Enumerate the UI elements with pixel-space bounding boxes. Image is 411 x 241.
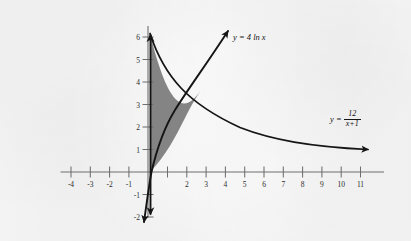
y-tick-label: 3	[126, 101, 140, 110]
graph-figure: -4 -3 -2 -1 2 3 4 5 6 7 8 9 10 11 6 5 4 …	[0, 0, 411, 241]
x-tick-label: 11	[353, 180, 369, 189]
y-tick-label: 5	[126, 56, 140, 65]
x-tick-label: 4	[218, 180, 233, 189]
log-curve-label: y = 4 ln x	[233, 31, 266, 42]
x-tick-label: 9	[314, 180, 329, 189]
fraction-denominator: x+1	[344, 120, 361, 128]
x-tick-label: 7	[276, 180, 291, 189]
x-tick-label: 2	[179, 180, 194, 189]
x-tick-label: 3	[199, 180, 214, 189]
rational-curve-label: y = 12 x+1	[330, 110, 361, 129]
x-tick-label: 10	[333, 180, 349, 189]
y-tick-label: -2	[124, 213, 140, 222]
y-tick-label: 2	[126, 123, 140, 132]
y-tick-label: 1	[126, 146, 140, 155]
rational-curve-fraction: 12 x+1	[344, 110, 361, 129]
x-tick-label: -3	[82, 180, 98, 189]
x-tick-label: 8	[295, 180, 310, 189]
rational-curve-label-lhs: y =	[330, 114, 342, 124]
x-tick-label: 5	[237, 180, 252, 189]
x-tick-label: 6	[257, 180, 272, 189]
fraction-numerator: 12	[344, 110, 361, 118]
x-tick-label: -2	[102, 180, 118, 189]
x-tick-label: -1	[121, 180, 137, 189]
log-curve-label-text: y = 4 ln x	[233, 32, 266, 42]
y-tick-label: 6	[126, 33, 140, 42]
rational-curve	[150, 34, 368, 150]
y-tick-label: 4	[126, 78, 140, 87]
y-tick-label: -1	[124, 191, 140, 200]
x-tick-label: -4	[63, 180, 79, 189]
